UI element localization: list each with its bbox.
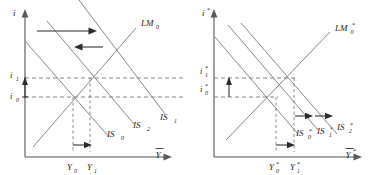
svg-text:IS: IS [159, 112, 168, 122]
domestic-is-lm-panel: i Y LM 0 IS 0 IS 2 [10, 0, 185, 174]
curve-lm0-star [226, 32, 330, 140]
svg-text:1: 1 [94, 168, 97, 174]
svg-text:*: * [352, 21, 355, 28]
right-tick-i1-star: i * 1 [200, 64, 208, 78]
svg-text:i: i [200, 84, 203, 94]
curve-is0-star [215, 37, 298, 134]
svg-text:i: i [10, 91, 13, 101]
left-y-axis-label: i [13, 8, 16, 18]
left-interest-rate-rise-arrow [22, 77, 28, 98]
curve-label-lm0-star: LM * 0 [334, 21, 355, 35]
svg-text:0: 0 [308, 134, 311, 140]
svg-text:*: * [205, 64, 208, 71]
svg-text:1: 1 [205, 72, 208, 78]
left-x-axis-arrowhead [164, 154, 173, 161]
curve-label-is2-star: IS * 2 [336, 121, 353, 134]
right-y-axis-arrowhead [211, 9, 218, 18]
curve-label-is2: IS 2 [132, 120, 150, 132]
svg-text:*: * [297, 160, 300, 167]
right-tick-y1-star: Y * 1 [290, 160, 300, 174]
left-tick-i0: i 0 [10, 91, 19, 103]
svg-text:i: i [10, 70, 13, 80]
right-interest-rate-rise-arrow-star [226, 77, 232, 98]
left-tick-i1: i 1 [10, 70, 19, 82]
svg-text:1: 1 [297, 168, 300, 174]
svg-text:Y: Y [87, 162, 93, 172]
svg-text:0: 0 [16, 97, 19, 103]
svg-text:LM: LM [334, 23, 348, 33]
left-output-rise-arrow [73, 142, 92, 148]
svg-text:Y: Y [269, 162, 275, 172]
svg-text:*: * [353, 147, 356, 154]
left-is-leftward-shift-arrow [74, 44, 103, 51]
starred-is-lm-panel: i * Y * LM * 0 IS * 0 [200, 6, 362, 174]
curve-label-is0-star: IS * 0 [295, 127, 312, 140]
is-lm-figure: i Y LM 0 IS 0 IS 2 [0, 0, 371, 175]
svg-text:2: 2 [349, 128, 352, 134]
svg-text:Y: Y [290, 162, 296, 172]
curve-label-lm0: LM 0 [140, 18, 159, 30]
svg-text:0: 0 [205, 90, 208, 96]
svg-text:2: 2 [147, 126, 150, 132]
left-x-axis-label: Y [156, 149, 164, 161]
left-is-rightward-shift-arrow [37, 28, 97, 35]
left-tick-y0: Y 0 [67, 162, 77, 174]
svg-text:*: * [205, 82, 208, 89]
curve-is2 [47, 21, 134, 124]
left-y-axis-arrowhead [22, 9, 29, 18]
right-x-axis-arrowhead [354, 154, 363, 161]
curve-is1-star [228, 25, 318, 130]
curve-lm0 [33, 28, 136, 147]
svg-text:*: * [309, 127, 312, 134]
svg-text:Y: Y [156, 150, 162, 160]
svg-text:Y: Y [346, 150, 352, 160]
left-tick-y1: Y 1 [87, 162, 97, 174]
curve-label-is0: IS 0 [106, 129, 124, 141]
svg-text:i: i [200, 66, 203, 76]
svg-text:0: 0 [156, 24, 159, 30]
svg-text:IS: IS [132, 120, 141, 130]
svg-text:IS: IS [336, 122, 345, 132]
svg-text:0: 0 [276, 168, 279, 174]
right-y-axis-label: i * [202, 6, 210, 19]
svg-text:0: 0 [121, 135, 124, 141]
svg-text:1: 1 [329, 132, 332, 138]
svg-text:*: * [350, 121, 353, 128]
svg-text:1: 1 [16, 76, 19, 82]
svg-text:IS: IS [316, 126, 325, 136]
svg-text:*: * [207, 6, 210, 13]
right-is-star-shift-arrow-2 [315, 113, 333, 119]
right-tick-y0-star: Y * 0 [269, 160, 279, 174]
svg-text:*: * [276, 160, 279, 167]
right-output-rise-arrow-star [276, 142, 295, 148]
svg-text:Y: Y [67, 162, 73, 172]
svg-text:IS: IS [295, 128, 304, 138]
svg-text:LM: LM [140, 18, 154, 28]
svg-text:0: 0 [74, 168, 77, 174]
svg-text:i: i [202, 8, 205, 18]
curve-label-is1: IS 1 [159, 112, 177, 124]
svg-text:0: 0 [351, 29, 354, 35]
svg-text:1: 1 [174, 118, 177, 124]
svg-text:IS: IS [106, 129, 115, 139]
right-tick-i0-star: i * 0 [200, 82, 208, 96]
curve-is0 [26, 42, 109, 137]
